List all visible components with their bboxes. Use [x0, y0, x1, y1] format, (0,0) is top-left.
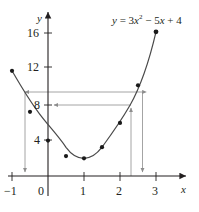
equation-const: 4 [176, 14, 182, 26]
graph-figure: y = 3x2 − 5x + 4 y x −1 0 1 2 3 4 8 12 1… [0, 0, 199, 212]
x-tick-label-2: 2 [116, 185, 122, 197]
equation-equals: = [120, 14, 126, 26]
equation-var-x2: x [160, 14, 165, 26]
data-point [154, 29, 159, 34]
x-tick-label-3: 3 [152, 185, 158, 197]
y-tick-label-12: 12 [27, 61, 39, 73]
guide-lines [25, 92, 143, 176]
equation-label: y = 3x2 − 5x + 4 [112, 13, 182, 26]
y-tick-label-8: 8 [34, 99, 40, 111]
equation-exponent: 2 [139, 13, 143, 21]
y-tick-label-16: 16 [27, 27, 39, 39]
x-tick-label--1: −1 [4, 185, 17, 197]
data-point [28, 110, 32, 114]
x-axis-label: x [181, 184, 186, 195]
equation-minus: − [145, 14, 151, 26]
equation-plus: + [167, 14, 173, 26]
data-point [100, 145, 104, 149]
data-point [118, 121, 122, 125]
equation-lhs: y [112, 14, 117, 26]
data-point [82, 156, 86, 160]
y-axis-label: y [37, 13, 42, 24]
x-tick-label-0: 0 [38, 185, 44, 197]
data-point [64, 154, 68, 158]
x-tick-label-1: 1 [80, 185, 86, 197]
data-point [10, 69, 14, 73]
data-point [136, 83, 140, 87]
data-point [46, 139, 50, 143]
data-points [10, 29, 159, 160]
y-tick-label-4: 4 [34, 134, 40, 146]
